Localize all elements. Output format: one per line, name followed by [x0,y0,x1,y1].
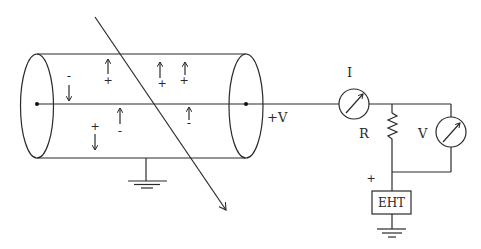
supply-polarity-label: + [366,172,375,185]
charge-sign: + [103,74,112,87]
voltage-terminal-label: +V [267,110,288,125]
electrode-dot-right [244,102,248,106]
ammeter: I [339,65,369,119]
ground-symbol-chamber [128,158,167,188]
cylinder-chamber [21,54,264,158]
charge-sign: - [187,116,191,130]
voltmeter: V [392,104,466,172]
ammeter-label: I [347,65,352,80]
electrode-dot-left [35,102,39,106]
charge-sign: + [90,120,99,133]
resistor-label: R [359,126,370,141]
voltmeter-label: V [417,126,428,141]
eht-supply: + EHT [366,172,411,214]
charge-sign: + [157,77,166,90]
charge-sign: + [179,74,188,87]
meter-needle-icon [346,94,363,113]
ground-symbol-supply [377,214,406,237]
resistor: R [359,104,397,191]
charge-sign: - [67,69,71,83]
ionization-chamber-diagram: - + + + + - - +V I [0,0,481,249]
charge-sign: - [118,124,122,138]
eht-label: EHT [378,196,405,210]
meter-circle [436,117,466,147]
meter-needle-icon [443,123,460,142]
